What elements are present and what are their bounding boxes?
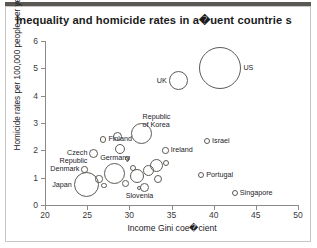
data-bubble xyxy=(154,175,162,183)
data-label-uk: UK xyxy=(157,77,167,85)
plot-area: USUKRepublic of KoreaIsraelFinlandIrelan… xyxy=(45,41,298,205)
x-tick-label: 40 xyxy=(204,211,224,220)
data-bubble xyxy=(163,160,169,166)
data-label-germany: Germany xyxy=(91,154,139,162)
x-tick-label: 35 xyxy=(162,211,182,220)
y-tick-label: 2 xyxy=(26,146,38,155)
data-label-republic-of-korea: Republic of Korea xyxy=(142,113,170,129)
data-label-finland: Finland xyxy=(108,135,132,143)
data-bubble xyxy=(130,169,144,183)
data-label-czech-republic: Czech Republic xyxy=(59,149,87,165)
data-label-portugal: Portugal xyxy=(206,171,233,179)
data-label-ireland: Ireland xyxy=(171,146,193,154)
data-label-japan: Japan xyxy=(52,181,72,189)
data-label-slovenia: Slovenia xyxy=(115,192,163,200)
data-bubble-uk xyxy=(169,71,188,90)
x-axis-label: Income Gini coe�cient xyxy=(45,223,299,233)
y-tick-label: 5 xyxy=(26,64,38,73)
data-bubble xyxy=(101,183,106,188)
y-axis-label: Homicide rates per 100,000 people per ye… xyxy=(13,0,22,151)
x-tick-label: 25 xyxy=(77,211,97,220)
x-tick-label: 45 xyxy=(246,211,266,220)
data-bubble-portugal xyxy=(198,172,204,178)
data-label-us: US xyxy=(243,64,253,72)
y-tick-label: 3 xyxy=(26,119,38,128)
data-bubble-ireland xyxy=(162,147,168,153)
x-tick-label: 30 xyxy=(119,211,139,220)
y-tick-label: 0 xyxy=(26,201,38,210)
y-tick-label: 6 xyxy=(26,37,38,46)
data-bubble-singapore xyxy=(232,190,238,196)
x-tick-label: 20 xyxy=(35,211,55,220)
data-label-denmark: Denmark xyxy=(50,165,79,173)
chart-screenshot: Inequality and homicide rates in a�uent … xyxy=(0,0,317,248)
data-label-israel: Israel xyxy=(212,137,230,145)
chart-title: Inequality and homicide rates in a�uent … xyxy=(16,14,306,27)
data-bubble xyxy=(122,180,129,187)
x-tick-label: 50 xyxy=(288,211,308,220)
y-tick-label: 1 xyxy=(26,174,38,183)
data-bubble xyxy=(150,159,163,172)
data-bubble-israel xyxy=(204,138,210,144)
data-bubble-finland xyxy=(100,136,106,142)
data-bubble-us xyxy=(199,47,241,89)
data-bubble-japan xyxy=(74,172,99,197)
y-tick-label: 4 xyxy=(26,92,38,101)
data-label-singapore: Singapore xyxy=(240,189,273,197)
